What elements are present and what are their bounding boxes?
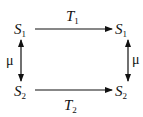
edge-label-left: μ xyxy=(6,54,14,68)
node-subscript: 2 xyxy=(123,91,128,101)
node-subscript: 1 xyxy=(123,29,128,39)
edge-label-right: μ xyxy=(132,53,140,67)
node-top-left: S1 xyxy=(14,22,26,39)
node-label: S xyxy=(115,21,123,37)
edge-subscript: 2 xyxy=(72,105,77,115)
node-label: S xyxy=(14,83,22,99)
edge-label-bottom: T2 xyxy=(64,98,77,115)
node-bottom-left: S2 xyxy=(14,84,26,101)
node-bottom-right: S2 xyxy=(115,84,127,101)
edge-subscript: 1 xyxy=(74,16,79,26)
node-subscript: 1 xyxy=(22,29,27,39)
node-label: S xyxy=(14,21,22,37)
node-subscript: 2 xyxy=(22,91,27,101)
node-label: S xyxy=(115,83,123,99)
node-top-right: S1 xyxy=(115,22,127,39)
edge-label-top: T1 xyxy=(66,9,79,26)
